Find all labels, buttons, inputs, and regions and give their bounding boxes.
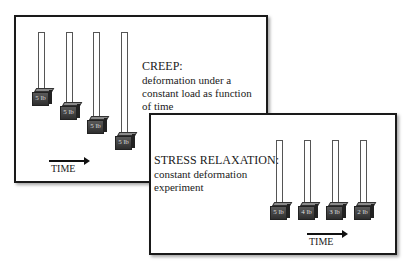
creep-desc-line-2: constant load as function — [142, 87, 252, 100]
creep-rod-1 — [38, 32, 45, 90]
weight-label: 5 lb — [270, 207, 287, 218]
weight-label: 5 lb — [32, 93, 49, 104]
relax-rod-4 — [360, 140, 367, 204]
creep-rod-3 — [93, 32, 100, 118]
relax-weight-4: 2 lb — [354, 202, 374, 220]
creep-time-label: TIME — [51, 163, 75, 174]
time-arrow-icon — [49, 160, 85, 162]
relaxation-time-label: TIME — [309, 236, 333, 247]
relax-weight-3: 3 lb — [326, 202, 346, 220]
weight-label: 3 lb — [326, 207, 343, 218]
creep-title: CREEP: — [142, 59, 183, 73]
relaxation-title: STRESS RELAXATION: — [154, 153, 279, 167]
creep-desc-line-3: of time — [142, 100, 173, 113]
creep-weight-1: 5 lb — [32, 88, 52, 106]
creep-rod-4 — [121, 32, 128, 134]
stress-relaxation-panel: 5 lb 4 lb 3 lb 2 lb STRESS RELAXATION: c… — [149, 113, 397, 255]
weight-label: 5 lb — [60, 107, 77, 118]
weight-label: 5 lb — [115, 137, 132, 148]
creep-weight-2: 5 lb — [60, 102, 80, 120]
relax-rod-1 — [276, 140, 283, 204]
time-arrow-icon — [307, 233, 343, 235]
relax-weight-1: 5 lb — [270, 202, 290, 220]
creep-weight-4: 5 lb — [115, 132, 135, 150]
weight-label: 2 lb — [354, 207, 371, 218]
relaxation-desc-line-1: constant deformation — [154, 168, 247, 181]
creep-rod-2 — [66, 32, 73, 104]
relax-rod-3 — [332, 140, 339, 204]
relaxation-desc-line-2: experiment — [154, 181, 203, 194]
creep-weight-3: 5 lb — [87, 116, 107, 134]
weight-label: 4 lb — [298, 207, 315, 218]
weight-label: 5 lb — [87, 121, 104, 132]
relax-weight-2: 4 lb — [298, 202, 318, 220]
relax-rod-2 — [304, 140, 311, 204]
creep-desc-line-1: deformation under a — [142, 74, 231, 87]
